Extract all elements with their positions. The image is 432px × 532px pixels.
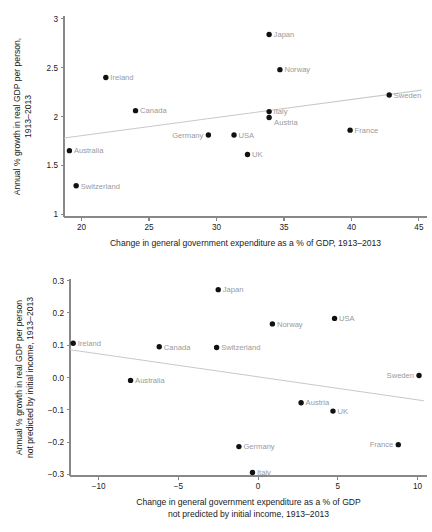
data-point-marker[interactable] xyxy=(67,148,72,153)
x-axis-title: not predicted by initial income, 1913–20… xyxy=(168,509,329,519)
x-tick-label: 25 xyxy=(144,223,154,232)
data-point[interactable]: Switzerland xyxy=(214,343,260,352)
data-point-label: Canada xyxy=(164,343,191,352)
y-tick-label: 3 xyxy=(53,15,58,24)
data-point[interactable]: USA xyxy=(332,314,356,323)
data-point-label: Canada xyxy=(140,106,167,115)
data-point-label: Ireland xyxy=(78,339,101,348)
scatter-figure: 11.522.53202530354045JapanNorwayIrelandS… xyxy=(0,0,432,532)
data-point-marker[interactable] xyxy=(216,287,221,292)
data-point-label: Austria xyxy=(274,118,298,127)
y-axis-title: not predicted by initial income, 1913–20… xyxy=(25,297,35,458)
data-point-marker[interactable] xyxy=(266,32,271,37)
data-point[interactable]: Germany xyxy=(172,131,211,140)
data-point[interactable]: USA xyxy=(231,131,255,140)
data-point[interactable]: Canada xyxy=(157,343,192,352)
y-tick-label: 2 xyxy=(53,113,58,122)
data-point-marker[interactable] xyxy=(266,109,271,114)
data-point[interactable]: UK xyxy=(245,150,263,159)
y-tick-label: 2.5 xyxy=(47,64,59,73)
data-point-marker[interactable] xyxy=(298,400,303,405)
data-point-label: Australia xyxy=(74,146,104,155)
data-point-marker[interactable] xyxy=(266,115,271,120)
data-point-label: Japan xyxy=(223,285,244,294)
data-point-marker[interactable] xyxy=(214,345,219,350)
x-tick-label: 30 xyxy=(212,223,222,232)
y-tick-label: −0.1 xyxy=(48,406,65,415)
data-point-label: Italy xyxy=(274,107,288,116)
data-point-label: Norway xyxy=(277,320,303,329)
data-point[interactable]: Austria xyxy=(298,398,330,407)
y-tick-label: −0.2 xyxy=(48,438,65,447)
y-tick-label: 0.2 xyxy=(53,309,65,318)
data-point-label: Norway xyxy=(284,65,310,74)
data-point-marker[interactable] xyxy=(387,92,392,97)
data-point[interactable]: Switzerland xyxy=(73,182,119,191)
data-point-marker[interactable] xyxy=(103,75,108,80)
data-point-marker[interactable] xyxy=(133,108,138,113)
data-point-label: Sweden xyxy=(394,91,421,100)
data-point-marker[interactable] xyxy=(128,378,133,383)
data-point-marker[interactable] xyxy=(73,183,78,188)
data-point[interactable]: Australia xyxy=(67,146,105,155)
x-tick-label: 5 xyxy=(335,482,340,491)
data-point[interactable]: Germany xyxy=(236,442,275,451)
data-point-label: Japan xyxy=(274,30,295,39)
x-tick-label: 10 xyxy=(413,482,423,491)
data-point-label: Switzerland xyxy=(81,182,120,191)
data-point-marker[interactable] xyxy=(245,152,250,157)
x-tick-label: 20 xyxy=(77,223,87,232)
data-point[interactable]: Norway xyxy=(270,320,303,329)
data-point-marker[interactable] xyxy=(347,127,352,132)
data-point-marker[interactable] xyxy=(330,408,335,413)
y-tick-label: −0.3 xyxy=(48,470,65,479)
data-point-label: Germany xyxy=(172,131,203,140)
data-point[interactable]: Ireland xyxy=(103,73,133,82)
data-point[interactable]: Canada xyxy=(133,106,168,115)
data-point-label: Germany xyxy=(243,442,274,451)
data-point[interactable]: Australia xyxy=(128,376,166,385)
data-point-marker[interactable] xyxy=(332,316,337,321)
data-point-label: Switzerland xyxy=(221,343,260,352)
data-point-marker[interactable] xyxy=(236,444,241,449)
data-point[interactable]: France xyxy=(347,126,378,135)
trend-line xyxy=(70,350,424,401)
data-point-label: Italy xyxy=(257,468,271,477)
y-axis-title: Annual % growth in real GDP per person, xyxy=(12,38,22,195)
y-tick-label: 0.1 xyxy=(53,341,65,350)
data-point-marker[interactable] xyxy=(231,132,236,137)
x-tick-label: 45 xyxy=(414,223,424,232)
data-point[interactable]: Ireland xyxy=(70,339,100,348)
data-point[interactable]: France xyxy=(370,440,401,449)
data-point-marker[interactable] xyxy=(157,344,162,349)
data-point[interactable]: Norway xyxy=(277,65,310,74)
data-point[interactable]: UK xyxy=(330,407,348,416)
x-tick-label: −5 xyxy=(174,482,184,491)
y-tick-label: 0.3 xyxy=(53,277,65,286)
x-tick-label: 0 xyxy=(256,482,261,491)
x-tick-label: −10 xyxy=(92,482,106,491)
data-point[interactable]: Sweden xyxy=(387,371,422,380)
data-point-marker[interactable] xyxy=(277,67,282,72)
x-tick-label: 40 xyxy=(347,223,357,232)
y-axis-title: 1913–2013 xyxy=(23,95,33,138)
data-point-marker[interactable] xyxy=(206,132,211,137)
data-point[interactable]: Austria xyxy=(266,115,298,127)
y-tick-label: 1 xyxy=(53,210,58,219)
data-point[interactable]: Japan xyxy=(216,285,244,294)
data-point-label: Austria xyxy=(306,398,330,407)
data-point-marker[interactable] xyxy=(396,442,401,447)
data-point[interactable]: Sweden xyxy=(387,91,422,100)
chart-panel-top: 11.522.53202530354045JapanNorwayIrelandS… xyxy=(0,0,432,266)
data-point-label: France xyxy=(355,126,379,135)
y-tick-label: 0.0 xyxy=(53,374,65,383)
chart-bottom-canvas: −0.3−0.2−0.10.00.10.20.3−10−50510JapanUS… xyxy=(0,266,432,532)
chart-panel-bottom: −0.3−0.2−0.10.00.10.20.3−10−50510JapanUS… xyxy=(0,266,432,532)
data-point-marker[interactable] xyxy=(70,341,75,346)
data-point[interactable]: Japan xyxy=(266,30,294,39)
chart-top-canvas: 11.522.53202530354045JapanNorwayIrelandS… xyxy=(0,0,432,266)
data-point-marker[interactable] xyxy=(416,373,421,378)
x-axis-title: Change in general government expenditure… xyxy=(136,497,361,507)
data-point-marker[interactable] xyxy=(250,470,255,475)
data-point-marker[interactable] xyxy=(270,321,275,326)
